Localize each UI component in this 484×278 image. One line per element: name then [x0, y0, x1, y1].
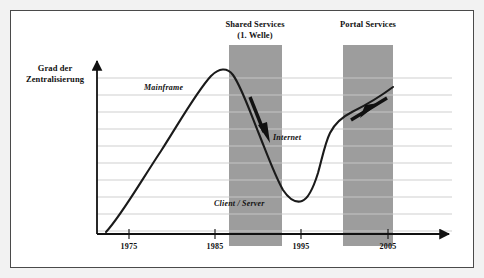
y-axis-title-line1: Grad der — [19, 63, 91, 74]
x-tick-label-1995: 1995 — [281, 242, 321, 251]
y-axis-title-line2: Zentralisierung — [19, 74, 91, 85]
annotation-internet: Internet — [273, 133, 301, 142]
x-tick-label-2005: 2005 — [368, 242, 408, 251]
chart-frame: Shared Services (1. Welle) Portal Servic… — [10, 10, 474, 268]
chart-graphics — [11, 11, 475, 269]
figure-container: Shared Services (1. Welle) Portal Servic… — [0, 0, 484, 278]
x-tick-label-1985: 1985 — [195, 242, 235, 251]
x-tick-label-1975: 1975 — [109, 242, 149, 251]
chart-plot-area: Shared Services (1. Welle) Portal Servic… — [11, 11, 475, 269]
band-label-shared-services: Shared Services (1. Welle) — [205, 19, 305, 40]
band-label-portal-line1: Portal Services — [318, 19, 418, 30]
annotation-mainframe: Mainframe — [144, 83, 183, 92]
y-axis-title: Grad der Zentralisierung — [19, 63, 91, 85]
annotation-client-server: Client / Server — [214, 199, 265, 208]
band-label-shared-line2: (1. Welle) — [205, 30, 305, 41]
gridlines — [97, 78, 452, 231]
band-label-shared-line1: Shared Services — [205, 19, 305, 30]
band-label-portal-services: Portal Services — [318, 19, 418, 30]
